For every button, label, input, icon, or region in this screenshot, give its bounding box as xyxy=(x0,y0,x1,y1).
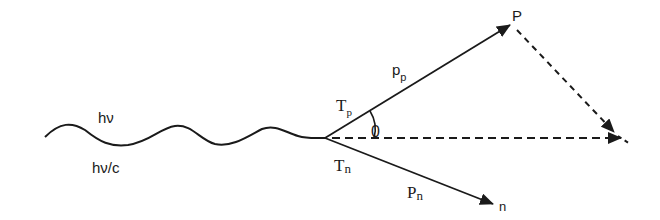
proton-momentum-label: pp xyxy=(392,62,406,77)
pn-sub: n xyxy=(416,188,423,203)
pp-sub: p xyxy=(400,71,406,83)
tp-main: T xyxy=(336,96,346,115)
angle-label: 0 xyxy=(371,124,380,140)
proton-endpoint-label: P xyxy=(512,8,522,23)
photon-momentum-label: hν/c xyxy=(92,160,120,175)
neutron-kinetic-energy-label: Tn xyxy=(334,157,351,174)
neutron-endpoint-label: n xyxy=(499,200,506,213)
tp-sub: p xyxy=(346,106,352,118)
tn-sub: n xyxy=(344,161,351,176)
dashed-extension xyxy=(618,136,630,144)
photon-energy-label: hν xyxy=(98,110,114,125)
neutron-momentum-dashed-translate xyxy=(517,30,614,132)
proton-momentum-arrow xyxy=(325,25,510,138)
neutron-momentum-label: Pn xyxy=(407,184,423,201)
proton-kinetic-energy-label: Tp xyxy=(336,97,352,114)
photon-wave xyxy=(45,125,325,146)
tn-main: T xyxy=(334,156,344,175)
